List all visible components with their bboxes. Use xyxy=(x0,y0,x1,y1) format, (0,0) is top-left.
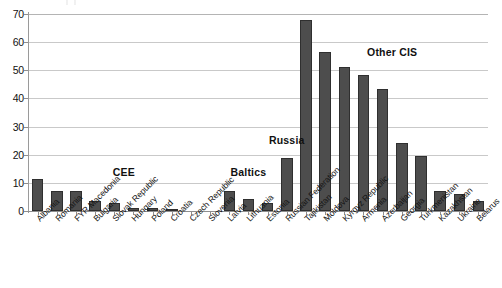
y-tick-mark-10 xyxy=(24,183,28,184)
y-tick-mark-30 xyxy=(24,127,28,128)
y-tick-mark-50 xyxy=(24,70,28,71)
y-tick-mark-20 xyxy=(24,155,28,156)
group-label-other-cis: Other CIS xyxy=(367,46,417,58)
group-label-cee: CEE xyxy=(113,166,135,178)
y-tick-mark-70 xyxy=(24,14,28,15)
y-tick-mark-40 xyxy=(24,98,28,99)
group-label-russia: Russia xyxy=(269,134,305,146)
y-tick-mark-0 xyxy=(24,211,28,212)
group-label-baltics: Baltics xyxy=(230,166,266,178)
y-tick-mark-60 xyxy=(24,42,28,43)
